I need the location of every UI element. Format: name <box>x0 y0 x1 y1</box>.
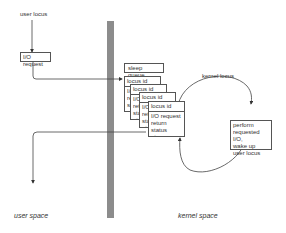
card-line: etc. <box>151 134 182 137</box>
queue-card-4: locus id I/O request return status etc. <box>148 101 185 137</box>
perform-line: requested I/O, <box>233 129 269 143</box>
space-divider <box>107 21 114 218</box>
kernel-locus-label: kernel locus <box>202 73 234 80</box>
user-locus-label: user locus <box>20 11 47 18</box>
sleep-queue-box: sleep queue <box>124 63 164 73</box>
card-line: return status <box>151 120 182 134</box>
card-header: locus id <box>149 102 184 112</box>
perform-line: perform <box>233 122 269 129</box>
io-request-box: I/O request <box>20 52 51 62</box>
kernel-space-label: kernel space <box>178 212 218 219</box>
arrow-queue-to-user <box>33 132 146 183</box>
perform-io-box: perform requested I/O, wake up user locu… <box>230 120 272 150</box>
kernel-loop-top <box>178 76 252 105</box>
perform-line: wake up <box>233 143 269 150</box>
io-request-label: I/O request <box>23 54 43 67</box>
card-line: I/O request <box>151 113 182 120</box>
user-space-label: user space <box>14 212 48 219</box>
perform-line: user locus <box>233 150 269 157</box>
